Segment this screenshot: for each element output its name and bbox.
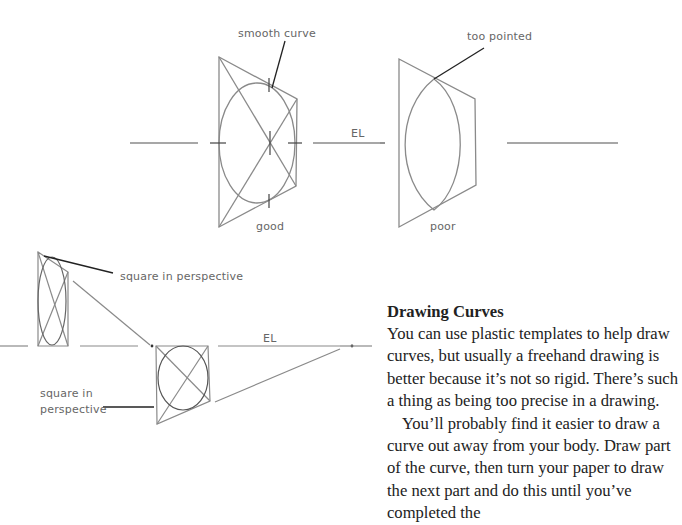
eye-level-label-bottom: EL [263,332,277,345]
good-example-tick-marks [210,78,302,208]
smooth-curve-label: smooth curve [238,27,316,40]
too-pointed-leader [434,48,484,79]
eye-level-label-top: EL [351,127,365,140]
article-paragraph-2: You’ll probably find it easier to draw a… [387,413,682,525]
vanishing-point-dot [151,345,154,348]
square-in-perspective-left-label-1: square in [40,387,93,400]
article-text: Drawing Curves You can use plastic templ… [387,301,682,525]
good-label: good [256,220,284,233]
square-top-leader [44,256,113,273]
poor-label: poor [430,220,456,233]
poor-example-drawing [380,59,618,227]
article-paragraph-1: You can use plastic templates to help dr… [387,323,682,413]
square-in-perspective-top-label: square in perspective [120,270,243,283]
good-example-drawing [130,57,385,227]
too-pointed-label: too pointed [467,30,532,43]
article-heading: Drawing Curves [387,301,682,323]
smooth-curve-leader [272,41,285,88]
square-in-perspective-left-label-2: perspective [40,403,107,416]
